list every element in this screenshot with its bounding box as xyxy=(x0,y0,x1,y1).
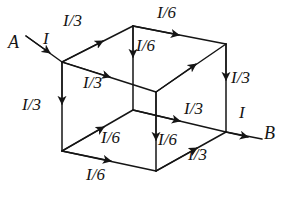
current-label-exit-current: I xyxy=(239,104,245,121)
edge-ftl-btl xyxy=(62,26,133,62)
current-label-left-vertical-edge: I/3 xyxy=(22,96,41,113)
edge-inner-B xyxy=(133,110,226,132)
current-label-bottom-front-edge: I/6 xyxy=(86,166,105,183)
edge-fbl-fbr xyxy=(62,151,156,171)
current-label-top-left-front-edge: I/3 xyxy=(63,12,82,29)
current-label-bottom-right-diag: I/3 xyxy=(188,146,207,163)
node-label-A: A xyxy=(8,33,19,51)
current-label-lead-in: I xyxy=(43,30,49,47)
current-label-bottom-vertical-edge: I/6 xyxy=(158,131,177,148)
current-label-mid-right-edge: I/3 xyxy=(184,100,203,117)
figure-canvas: A B I I/3 I/6 I/6 I/3 I/3 I/3 I/3 I I/6 … xyxy=(0,0,287,201)
edge-ftl-ftr xyxy=(62,62,156,92)
current-label-bottom-left-diag: I/6 xyxy=(101,129,120,146)
current-label-front-top-right-edge: I/3 xyxy=(83,74,102,91)
edge-lead-out-B xyxy=(226,132,262,139)
current-label-top-vertical-edge: I/6 xyxy=(136,37,155,54)
edge-fbl-inner xyxy=(62,110,133,151)
edge-ftr-btr xyxy=(156,44,226,92)
node-label-B: B xyxy=(264,124,275,142)
current-label-top-back-edge: I/6 xyxy=(157,4,176,21)
current-label-right-vertical-edge: I/3 xyxy=(231,69,250,86)
